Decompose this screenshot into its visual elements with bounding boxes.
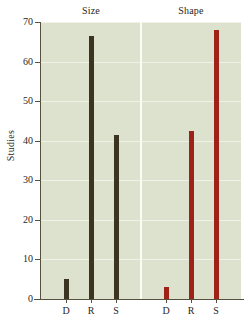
x-axis-label-shape-s: S (201, 304, 231, 317)
x-tick-shape-r (191, 299, 192, 303)
y-tick-10 (35, 259, 41, 260)
x-tick-size-s (116, 299, 117, 303)
x-axis-label-size-s: S (101, 304, 131, 317)
y-tick-label-70: 70 (0, 17, 33, 27)
x-tick-size-r (91, 299, 92, 303)
x-tick-shape-s (216, 299, 217, 303)
y-axis-line (40, 22, 41, 299)
group-separator (140, 22, 142, 299)
y-tick-0 (35, 299, 41, 300)
plot-area (41, 22, 241, 299)
group-titles: Size Shape (41, 4, 241, 20)
bar-chart-figure: Size Shape Studies 010203040506070DRSDRS (0, 0, 249, 322)
y-tick-label-10: 10 (0, 254, 33, 264)
y-tick-30 (35, 180, 41, 181)
bar-shape-d (164, 287, 169, 299)
bar-size-s (114, 135, 119, 299)
y-tick-60 (35, 62, 41, 63)
bar-shape-s (214, 30, 219, 299)
y-tick-label-60: 60 (0, 57, 33, 67)
y-tick-label-40: 40 (0, 136, 33, 146)
y-tick-label-50: 50 (0, 96, 33, 106)
group-title-shape: Shape (141, 4, 241, 20)
x-tick-shape-d (166, 299, 167, 303)
bar-shape-r (189, 131, 194, 299)
y-tick-label-0: 0 (0, 294, 33, 304)
group-title-size: Size (41, 4, 141, 20)
bar-size-r (89, 36, 94, 299)
y-tick-label-30: 30 (0, 175, 33, 185)
y-tick-50 (35, 101, 41, 102)
y-tick-label-20: 20 (0, 215, 33, 225)
bar-size-d (64, 279, 69, 299)
y-tick-20 (35, 220, 41, 221)
x-tick-size-d (66, 299, 67, 303)
y-tick-70 (35, 22, 41, 23)
y-tick-40 (35, 141, 41, 142)
